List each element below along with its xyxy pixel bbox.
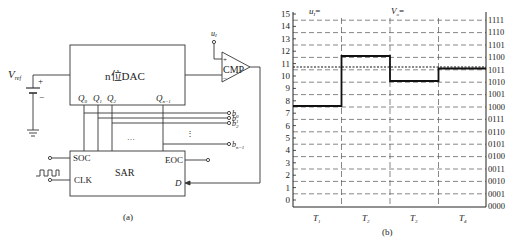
svg-text:2: 2 [286, 170, 291, 180]
clock-pulse-icon [36, 170, 59, 176]
cmp-minus-sign: − [223, 75, 227, 83]
period-t4: T4 [459, 213, 467, 224]
period-t2: T2 [362, 213, 370, 224]
bn-1-label: bn−1 [232, 140, 244, 150]
left-tick-labels: 0 1 2 3 4 5 6 7 8 9 10 11 12 13 14 15 [281, 9, 291, 205]
chart-ui-label: uI= [309, 6, 320, 17]
arrow-icon [185, 181, 190, 185]
svg-text:1010: 1010 [488, 77, 505, 87]
b1-terminal[interactable] [227, 116, 230, 119]
cmp-plus-sign: + [223, 56, 227, 64]
svg-text:14: 14 [281, 21, 291, 31]
svg-text:1100: 1100 [488, 52, 505, 62]
ellipsis-horizontal: … [127, 133, 135, 142]
b0-terminal[interactable] [227, 111, 230, 114]
clk-terminal[interactable] [48, 178, 51, 181]
bn-1-terminal[interactable] [227, 142, 230, 145]
figure-b-chart [293, 12, 486, 207]
sar-label: SAR [115, 167, 135, 178]
vref-label: Vref [8, 68, 23, 81]
svg-text:0: 0 [286, 195, 291, 205]
clk-label: CLK [74, 175, 93, 185]
qn-1-label: Qn−1 [156, 93, 171, 104]
svg-text:0000: 0000 [488, 201, 505, 211]
svg-text:0110: 0110 [488, 127, 505, 137]
soc-label: SOC [73, 153, 91, 163]
chart-vo-label: Vo= [391, 6, 404, 17]
q2-label: Q2 [107, 93, 117, 104]
svg-text:7: 7 [286, 108, 291, 118]
svg-text:4: 4 [286, 145, 291, 155]
svg-text:6: 6 [286, 121, 291, 131]
period-labels: T1 T2 T3 T4 [313, 213, 467, 224]
svg-text:8: 8 [286, 96, 291, 106]
svg-text:10: 10 [281, 71, 291, 81]
svg-text:1110: 1110 [488, 27, 504, 37]
dac-label: n位DAC [105, 69, 145, 82]
svg-text:1001: 1001 [488, 89, 505, 99]
svg-text:0011: 0011 [488, 164, 505, 174]
grid-horizontal [293, 20, 486, 194]
svg-text:12: 12 [281, 46, 290, 56]
ground-icon [27, 130, 39, 136]
input-terminal[interactable] [212, 40, 215, 43]
q0-label: Q0 [78, 93, 88, 104]
svg-text:1111: 1111 [488, 15, 504, 25]
svg-text:0100: 0100 [488, 151, 505, 161]
svg-text:0010: 0010 [488, 176, 505, 186]
battery-plus-sign: + [38, 76, 43, 86]
svg-text:5: 5 [286, 133, 291, 143]
battery-minus-sign: − [39, 92, 44, 102]
caption-b: (b) [382, 227, 393, 237]
period-t3: T3 [410, 213, 418, 224]
vo-step-waveform [293, 56, 486, 106]
svg-text:9: 9 [286, 83, 291, 93]
ui-label: uI [211, 29, 217, 38]
svg-text:0111: 0111 [488, 114, 504, 124]
svg-text:1000: 1000 [488, 102, 505, 112]
svg-text:1101: 1101 [488, 40, 505, 50]
b2-terminal[interactable] [227, 121, 230, 124]
ellipsis-vertical: ⋮ [186, 129, 194, 138]
caption-a: (a) [123, 212, 133, 222]
figure-a-labels: Vref + − n位DAC Q0 Q1 Q2 Qn−1 uI CMP + − … [8, 29, 245, 222]
svg-text:11: 11 [281, 59, 290, 69]
period-t1: T1 [313, 213, 321, 224]
d-label: D [174, 178, 182, 188]
grid-vertical [342, 18, 439, 207]
svg-text:0101: 0101 [488, 139, 505, 149]
eoc-label: EOC [165, 155, 183, 165]
figure-canvas: Vref + − n位DAC Q0 Q1 Q2 Qn−1 uI CMP + − … [0, 0, 519, 247]
q1-label: Q1 [93, 93, 102, 104]
soc-terminal[interactable] [48, 156, 51, 159]
svg-text:15: 15 [281, 9, 291, 19]
eoc-terminal[interactable] [206, 158, 209, 161]
svg-text:1: 1 [286, 183, 291, 193]
cmp-label: CMP [223, 64, 245, 75]
svg-text:1011: 1011 [488, 65, 505, 75]
svg-text:13: 13 [281, 34, 291, 44]
svg-text:0001: 0001 [488, 189, 505, 199]
svg-text:3: 3 [286, 158, 291, 168]
right-tick-labels: 0000 0001 0010 0011 0100 0101 0110 0111 … [488, 15, 505, 211]
